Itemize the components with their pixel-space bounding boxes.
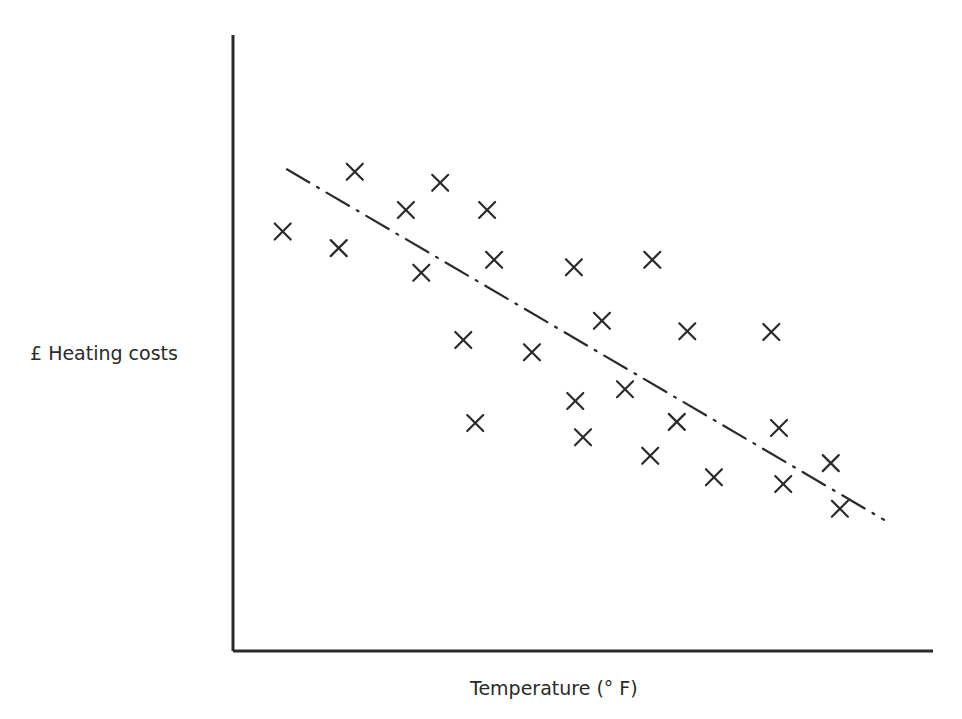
x-marker-icon	[763, 324, 779, 340]
x-marker-icon	[275, 224, 291, 240]
data-points	[275, 164, 848, 517]
x-marker-icon	[455, 332, 471, 348]
x-marker-icon	[467, 415, 483, 431]
x-marker-icon	[775, 476, 791, 492]
x-marker-icon	[575, 429, 591, 445]
x-marker-icon	[832, 501, 848, 517]
y-axis-label: £ Heating costs	[30, 342, 178, 364]
x-marker-icon	[432, 175, 448, 191]
x-marker-icon	[669, 414, 685, 430]
x-marker-icon	[617, 381, 633, 397]
trend-line	[287, 169, 884, 520]
x-marker-icon	[679, 323, 695, 339]
x-marker-icon	[644, 252, 660, 268]
x-marker-icon	[413, 265, 429, 281]
x-marker-icon	[594, 313, 610, 329]
x-marker-icon	[566, 259, 582, 275]
x-marker-icon	[771, 420, 787, 436]
x-marker-icon	[398, 202, 414, 218]
x-marker-icon	[706, 469, 722, 485]
x-marker-icon	[479, 202, 495, 218]
x-marker-icon	[524, 344, 540, 360]
x-axis-label: Temperature (° F)	[470, 677, 638, 699]
x-marker-icon	[486, 252, 502, 268]
x-marker-icon	[331, 240, 347, 256]
x-marker-icon	[347, 164, 363, 180]
x-marker-icon	[642, 448, 658, 464]
x-marker-icon	[567, 393, 583, 409]
x-marker-icon	[823, 455, 839, 471]
